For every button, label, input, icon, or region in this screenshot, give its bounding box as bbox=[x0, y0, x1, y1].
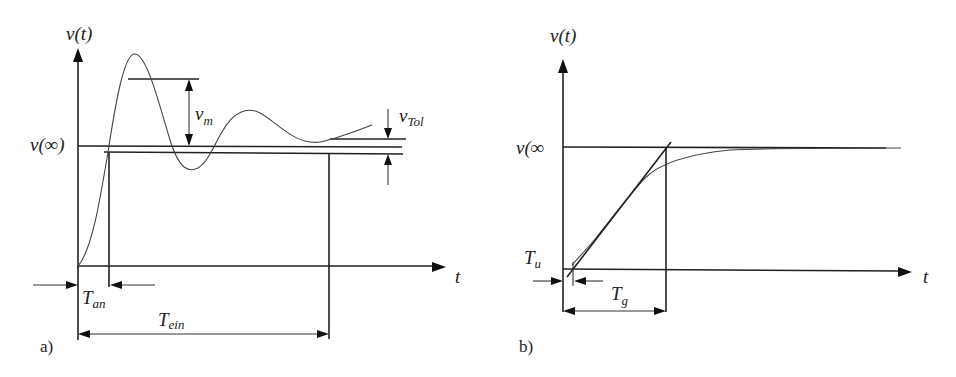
x-axis-label-a: t bbox=[455, 266, 461, 287]
steady-state-label-a: v(∞) bbox=[30, 134, 65, 156]
panel-b: v(t) t v(∞ Tu Tg b) bbox=[516, 25, 929, 356]
rise-time-label: Tan bbox=[82, 287, 106, 311]
settling-time-arrow-right bbox=[317, 330, 329, 338]
overshoot-arrow-up bbox=[185, 79, 193, 91]
rise-time-arrow-right bbox=[110, 281, 122, 289]
y-axis-label-b: v(t) bbox=[550, 25, 576, 47]
compensation-time-label: Tg bbox=[611, 283, 629, 308]
step-response-diagram: v(t) t v(∞) vm vTol Tan Tein a) bbox=[0, 0, 956, 377]
tolerance-lower-line bbox=[104, 152, 403, 154]
compensation-time-arrow-right bbox=[654, 307, 666, 315]
settling-time-label: Tein bbox=[158, 309, 184, 332]
tolerance-label: vTol bbox=[399, 105, 424, 129]
steady-state-label-b: v(∞ bbox=[516, 137, 544, 159]
panel-tag-a: a) bbox=[40, 337, 53, 356]
dead-time-arrow-left bbox=[551, 277, 563, 285]
overshoot-arrow-down bbox=[185, 134, 193, 146]
y-axis-arrow-a bbox=[73, 48, 83, 62]
panel-a: v(t) t v(∞) vm vTol Tan Tein a) bbox=[30, 23, 461, 356]
inflection-tangent bbox=[567, 142, 671, 277]
rise-time-arrow-left bbox=[66, 281, 78, 289]
tolerance-arrow-top bbox=[384, 128, 392, 139]
steady-state-line-a bbox=[78, 146, 402, 147]
compensation-time-arrow-left bbox=[563, 307, 575, 315]
y-axis-label-a: v(t) bbox=[66, 23, 92, 45]
tolerance-arrow-bottom bbox=[384, 154, 392, 165]
dead-time-arrow-right bbox=[574, 277, 586, 285]
response-curve-a bbox=[78, 54, 372, 266]
overshoot-label: vm bbox=[195, 103, 213, 128]
x-axis-arrow-a bbox=[432, 262, 446, 272]
x-axis-b bbox=[563, 269, 898, 271]
dead-time-label: Tu bbox=[524, 247, 542, 271]
x-axis-arrow-b bbox=[898, 267, 912, 277]
y-axis-arrow-b bbox=[558, 59, 568, 73]
x-axis-label-b: t bbox=[923, 266, 929, 287]
panel-tag-b: b) bbox=[519, 337, 533, 356]
settling-time-arrow-left bbox=[78, 330, 90, 338]
